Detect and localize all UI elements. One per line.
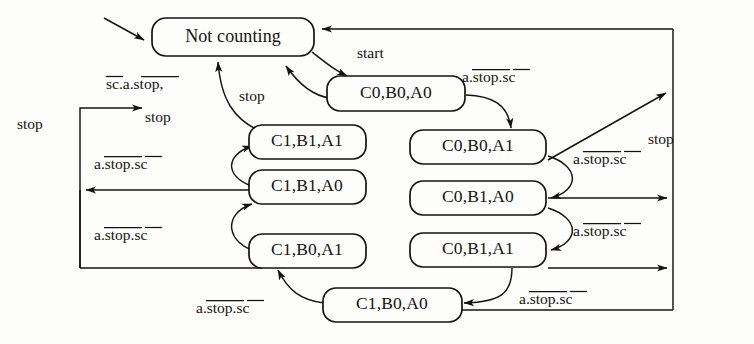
state-node-c1b0a1[interactable]: C1,B0,A1 (249, 234, 366, 268)
edge-label-astopsc-7: a.stop.sc (519, 290, 587, 307)
edge-label-stop-left-rail: stop (17, 115, 43, 132)
edge-label-stop-mid: stop (239, 87, 265, 104)
state-nodes: Not counting C0,B0,A0 C1,B1,A1 C1,B1,A0 … (152, 18, 546, 322)
edge-label-astopsc-6: a.stop.sc (196, 299, 264, 316)
state-node-label: C0,B1,A1 (442, 238, 514, 258)
edge-label-start: start (357, 44, 384, 61)
state-node-c0b1a0[interactable]: C0,B1,A0 (410, 181, 546, 215)
wire-c1b0a0-to-c1b0a1 (278, 270, 324, 303)
state-node-c1b1a1[interactable]: C1,B1,A1 (249, 125, 366, 159)
state-node-c0b1a1[interactable]: C0,B1,A1 (410, 233, 546, 267)
state-node-label: C0,B0,A1 (442, 135, 514, 155)
state-node-label: C1,B0,A1 (271, 239, 343, 259)
wire-c0b1a0-to-c0b1a1 (548, 208, 572, 250)
edge-label-astopsc-3: a.stop.sc (94, 226, 162, 243)
edge-label-sc-a-stop-comma: sc.a.stop, sc.a.stop, (106, 75, 179, 92)
state-node-c0b0a1[interactable]: C0,B0,A1 (410, 130, 546, 164)
edge-label-stop-under: stop (145, 108, 171, 125)
state-node-label: C1,B1,A1 (271, 130, 343, 150)
state-diagram-figure: Not counting C0,B0,A0 C1,B1,A1 C1,B1,A0 … (0, 0, 754, 344)
edge-label-astopsc-1: a.stop.sc (462, 68, 530, 85)
wire-incoming-start-arrow (104, 18, 144, 40)
state-node-label: C1,B0,A0 (356, 293, 428, 313)
state-node-c1b1a0[interactable]: C1,B1,A0 (249, 170, 366, 204)
state-node-label: C1,B1,A0 (271, 175, 343, 195)
wire-notcounting-to-c0b0a0-start (312, 52, 347, 76)
state-node-label: C0,B0,A0 (360, 82, 432, 102)
edge-label-stop-right-rail: stop (648, 130, 674, 147)
wire-c0b0a0-to-c0b0a1 (466, 95, 511, 128)
state-node-c0b0a0[interactable]: C0,B0,A0 (327, 76, 465, 111)
wire-left-rail-to-notcounting (80, 108, 142, 268)
edge-label-astopsc-5: a.stop.sc (573, 222, 641, 239)
state-diagram-canvas: Not counting C0,B0,A0 C1,B1,A1 C1,B1,A0 … (0, 0, 754, 344)
edge-label-astopsc-2: a.stop.sc (94, 155, 162, 172)
state-node-label: C0,B1,A0 (442, 186, 514, 206)
wire-c0b0a0-to-notcounting-stop (286, 66, 330, 98)
state-node-label: Not counting (185, 26, 281, 46)
state-node-c1b0a0[interactable]: C1,B0,A0 (323, 288, 462, 322)
state-node-not-counting[interactable]: Not counting (152, 18, 314, 56)
wire-c0b1a1-to-c1b0a0 (464, 268, 512, 303)
wire-c0b0a1-to-c0b1a0 (548, 156, 572, 198)
edge-label-astopsc-4: a.stop.sc (573, 150, 641, 167)
